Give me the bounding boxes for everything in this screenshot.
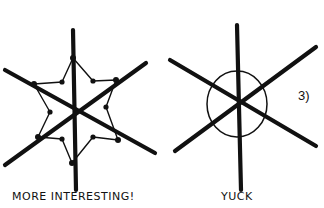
outer-node-dot [31, 81, 37, 87]
yuck-snowflake-figure [170, 25, 316, 190]
inner-node-dot [90, 78, 95, 83]
caption-more-interesting: MORE INTERESTING! [12, 190, 135, 203]
inner-node-dot [59, 136, 64, 141]
outer-node-dot [115, 137, 121, 143]
inner-node-dot [90, 134, 95, 139]
outer-node-dot [70, 55, 76, 61]
outer-node-dot [69, 160, 75, 166]
caption-yuck: YUCK [221, 190, 253, 203]
inner-node-dot [47, 109, 52, 114]
inner-node-dot [103, 104, 108, 109]
outer-node-dot [35, 134, 41, 140]
snowflake-comparison-diagram [0, 0, 324, 208]
inner-node-dot [59, 79, 64, 84]
figure-number-label: 3) [298, 88, 310, 103]
outer-node-dot [113, 77, 119, 83]
interesting-snowflake-figure [5, 30, 155, 190]
spoke-line [237, 25, 241, 190]
